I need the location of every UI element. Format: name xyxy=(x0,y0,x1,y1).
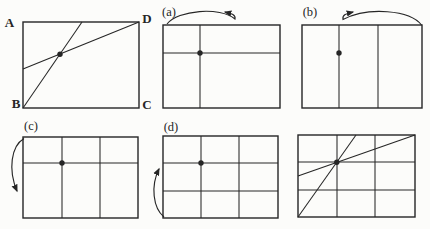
figure-canvas: A D B C (a) (b) (c) xyxy=(0,0,430,229)
corner-label-d: D xyxy=(142,11,151,26)
fold-point-dot xyxy=(59,160,64,165)
panel-a-label: (a) xyxy=(162,5,176,19)
paper-folding-figure: A D B C (a) (b) (c) xyxy=(0,0,430,229)
paper-outline xyxy=(23,137,138,218)
corner-label-a: A xyxy=(5,15,15,30)
crease-line-shallow xyxy=(23,22,139,69)
panel-a: (a) xyxy=(162,5,280,109)
panel-d: (d) xyxy=(154,120,278,218)
paper-outline xyxy=(302,25,422,108)
fold-point-dot xyxy=(336,50,341,55)
fold-point-dot xyxy=(334,160,339,165)
corner-label-c: C xyxy=(142,97,151,112)
fold-arrow xyxy=(343,11,422,25)
panel-main-abcd: A D B C xyxy=(5,11,152,112)
panel-final xyxy=(298,135,415,217)
panel-b-label: (b) xyxy=(303,5,318,19)
paper-outline xyxy=(23,22,139,108)
fold-arrow xyxy=(12,139,24,192)
panel-c: (c) xyxy=(12,119,138,218)
panel-d-label: (d) xyxy=(164,120,179,134)
panel-b: (b) xyxy=(302,5,422,108)
fold-point-dot xyxy=(197,50,202,55)
fold-point-dot xyxy=(198,160,203,165)
paper-outline xyxy=(298,135,415,217)
diagonal-shallow xyxy=(298,135,415,176)
fold-point-dot xyxy=(57,52,62,57)
diagonal-steep xyxy=(298,135,356,217)
paper-outline xyxy=(163,25,280,108)
corner-label-b: B xyxy=(12,96,21,111)
fold-arrow xyxy=(167,11,235,24)
paper-outline xyxy=(163,136,278,218)
panel-c-label: (c) xyxy=(24,119,38,133)
